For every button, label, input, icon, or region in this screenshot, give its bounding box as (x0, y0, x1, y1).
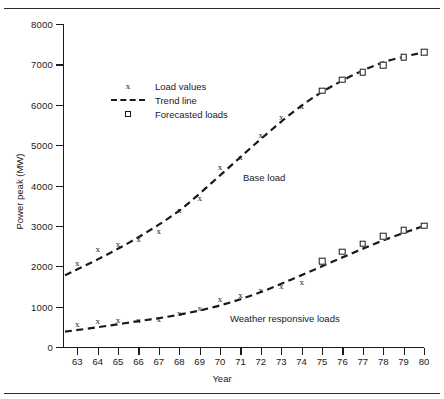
data-point-x-base-load: x (177, 205, 182, 214)
legend-label: Forecasted loads (151, 109, 228, 120)
y-tick-label: 2000 (31, 261, 53, 272)
x-tick-mark (342, 348, 343, 355)
data-point-square-base-load (319, 87, 326, 94)
x-tick-mark (424, 348, 425, 355)
y-tick-mark (56, 347, 63, 348)
x-tick-mark (383, 348, 384, 355)
x-tick-label: 65 (113, 356, 124, 367)
x-tick-mark (159, 348, 160, 355)
y-tick-mark (56, 145, 63, 146)
legend-label: Trend line (151, 95, 197, 106)
x-tick-mark (118, 348, 119, 355)
data-point-x-weather-responsive-loads: x (218, 295, 223, 304)
x-tick-mark (261, 348, 262, 355)
data-point-x-base-load: x (136, 234, 141, 243)
x-tick-label: 77 (358, 356, 369, 367)
data-point-square-weather-responsive-loads (339, 248, 346, 255)
x-tick-label: 71 (235, 356, 246, 367)
legend-label: Load values (151, 81, 206, 92)
x-tick-label: 78 (378, 356, 389, 367)
data-point-x-base-load: x (197, 193, 202, 202)
y-tick-label: 3000 (31, 220, 53, 231)
data-point-square-base-load (360, 69, 367, 76)
data-point-square-base-load (380, 62, 387, 69)
legend-item-load-values: x Load values (105, 79, 228, 93)
x-tick-label: 66 (133, 356, 144, 367)
data-point-square-base-load (400, 54, 407, 61)
data-point-x-base-load: x (95, 245, 100, 254)
data-point-square-weather-responsive-loads (400, 227, 407, 234)
x-tick-label: 79 (398, 356, 409, 367)
data-point-x-weather-responsive-loads: x (279, 281, 284, 290)
y-tick-mark (56, 226, 63, 227)
x-tick-label: 70 (215, 356, 226, 367)
data-point-x-base-load: x (116, 239, 121, 248)
y-axis-title: Power peak (MW) (14, 137, 25, 247)
x-tick-mark (281, 348, 282, 355)
data-point-square-weather-responsive-loads (360, 240, 367, 247)
x-tick-label: 68 (174, 356, 185, 367)
data-point-x-base-load: x (218, 163, 223, 172)
data-point-square-base-load (339, 76, 346, 83)
y-tick-label: 8000 (31, 19, 53, 30)
x-tick-label: 72 (256, 356, 267, 367)
top-rule (4, 8, 440, 9)
x-tick-label: 63 (72, 356, 83, 367)
x-tick-label: 64 (92, 356, 103, 367)
data-point-x-base-load: x (75, 259, 80, 268)
y-tick-mark (56, 105, 63, 106)
y-tick-label: 7000 (31, 59, 53, 70)
x-marker-icon: x (105, 81, 151, 91)
y-tick-label: 5000 (31, 140, 53, 151)
x-tick-label: 74 (296, 356, 307, 367)
x-tick-mark (322, 348, 323, 355)
y-tick-mark (56, 266, 63, 267)
data-point-x-base-load: x (157, 226, 162, 235)
x-tick-mark (220, 348, 221, 355)
series-annotation-base-load: Base load (243, 172, 285, 183)
data-point-x-weather-responsive-loads: x (75, 320, 80, 329)
x-tick-mark (98, 348, 99, 355)
data-point-x-weather-responsive-loads: x (136, 315, 141, 324)
legend: x Load values Trend line Forecasted load… (105, 79, 228, 121)
legend-item-forecasted-loads: Forecasted loads (105, 107, 228, 121)
y-tick-mark (56, 64, 63, 65)
series-annotation-weather-responsive-loads: Weather responsive loads (230, 313, 340, 324)
y-tick-mark (56, 186, 63, 187)
data-point-x-weather-responsive-loads: x (259, 286, 264, 295)
figure: 010002000300040005000600070008000 636465… (0, 0, 444, 399)
x-tick-label: 76 (337, 356, 348, 367)
y-tick-mark (56, 24, 63, 25)
x-tick-mark (302, 348, 303, 355)
x-tick-label: 67 (154, 356, 165, 367)
x-tick-mark (179, 348, 180, 355)
data-point-x-base-load: x (259, 131, 264, 140)
data-point-square-weather-responsive-loads (380, 233, 387, 240)
square-marker-icon (105, 111, 151, 118)
x-tick-label: 80 (419, 356, 430, 367)
data-point-square-weather-responsive-loads (421, 223, 428, 230)
x-axis-title: Year (0, 373, 444, 384)
x-tick-mark (240, 348, 241, 355)
data-point-square-base-load (421, 49, 428, 56)
data-point-x-weather-responsive-loads: x (197, 304, 202, 313)
plot-canvas (0, 0, 444, 399)
data-point-x-weather-responsive-loads: x (95, 317, 100, 326)
x-tick-label: 75 (317, 356, 328, 367)
data-point-x-base-load: x (238, 153, 243, 162)
x-tick-mark (363, 348, 364, 355)
x-tick-label: 73 (276, 356, 287, 367)
data-point-x-base-load: x (299, 101, 304, 110)
x-tick-label: 69 (194, 356, 205, 367)
x-tick-mark (404, 348, 405, 355)
legend-item-trend-line: Trend line (105, 93, 228, 107)
y-tick-label: 4000 (31, 180, 53, 191)
data-point-x-weather-responsive-loads: x (177, 309, 182, 318)
data-point-square-weather-responsive-loads (319, 258, 326, 265)
data-point-x-weather-responsive-loads: x (238, 291, 243, 300)
bottom-rule (4, 393, 440, 394)
y-tick-mark (56, 307, 63, 308)
x-tick-mark (200, 348, 201, 355)
data-point-x-base-load: x (279, 112, 284, 121)
x-tick-mark (77, 348, 78, 355)
